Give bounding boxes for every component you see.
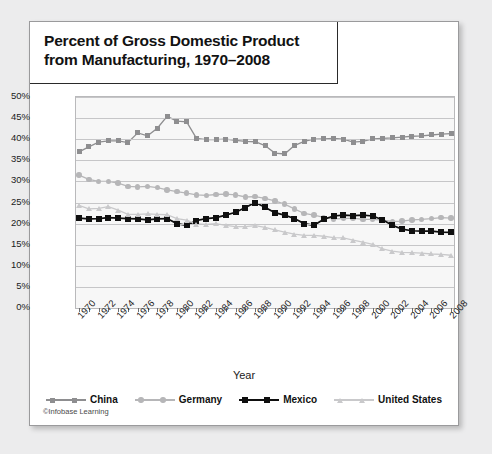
chart-title-box: Percent of Gross Domestic Product from M…: [30, 22, 338, 84]
data-point-germany: [164, 187, 170, 193]
data-point-germany: [301, 211, 307, 217]
y-axis-tick-label: 20%: [0, 217, 30, 228]
data-point-china: [449, 131, 454, 136]
grid-line: [76, 160, 454, 161]
data-point-mexico: [174, 221, 180, 227]
y-axis-tick-label: 0%: [0, 301, 30, 312]
data-point-mexico: [321, 216, 327, 222]
data-point-china: [390, 135, 395, 140]
data-point-germany: [399, 218, 405, 224]
legend-marker: [50, 398, 55, 403]
data-point-united-states: [301, 233, 307, 238]
page-title-line-1: Percent of Gross Domestic Product: [44, 31, 337, 50]
data-point-china: [165, 114, 170, 119]
legend-item-mexico[interactable]: Mexico: [239, 394, 317, 405]
data-point-mexico: [428, 228, 434, 234]
data-point-china: [341, 137, 346, 142]
chart-screenshot: Percent of Gross Domestic Product from M…: [0, 0, 492, 454]
data-point-mexico: [115, 215, 121, 221]
data-point-united-states: [379, 246, 385, 251]
data-point-mexico: [233, 209, 239, 215]
data-point-united-states: [340, 235, 346, 240]
legend-swatch: [239, 394, 279, 405]
data-point-china: [96, 140, 101, 145]
data-point-mexico: [223, 212, 229, 218]
data-point-united-states: [311, 233, 317, 238]
data-point-china: [380, 136, 385, 141]
data-point-mexico: [409, 228, 415, 234]
data-point-china: [106, 138, 111, 143]
data-point-mexico: [242, 205, 248, 211]
data-point-china: [351, 140, 356, 145]
data-point-germany: [115, 180, 121, 186]
data-point-united-states: [370, 242, 376, 247]
plot-wrapper: 0%5%10%15%20%25%30%35%40%45%50% 19701972…: [30, 84, 458, 427]
data-point-united-states: [96, 206, 102, 211]
legend-marker: [264, 397, 270, 403]
data-point-germany: [272, 198, 278, 204]
data-point-germany: [213, 192, 219, 198]
data-point-united-states: [233, 224, 239, 229]
data-point-mexico: [370, 213, 376, 219]
y-axis-tick-label: 15%: [0, 238, 30, 249]
data-point-china: [116, 138, 121, 143]
data-point-mexico: [213, 215, 219, 221]
legend-swatch: [135, 394, 175, 405]
data-point-china: [174, 119, 179, 124]
chart-card: Percent of Gross Domestic Product from M…: [29, 21, 459, 426]
data-point-mexico: [203, 216, 209, 222]
legend-swatch: [334, 394, 374, 405]
legend-label: Germany: [179, 394, 222, 405]
data-point-united-states: [145, 211, 151, 216]
legend-item-china[interactable]: China: [46, 394, 118, 405]
data-point-united-states: [350, 238, 356, 243]
data-point-china: [135, 130, 140, 135]
data-point-china: [400, 135, 405, 140]
y-axis-tick-label: 5%: [0, 280, 30, 291]
legend-label: China: [90, 394, 118, 405]
y-axis-tick-label: 25%: [0, 196, 30, 207]
data-point-germany: [409, 217, 415, 223]
data-point-mexico: [76, 215, 82, 221]
data-point-united-states: [213, 221, 219, 226]
data-point-united-states: [164, 212, 170, 217]
data-point-germany: [174, 189, 180, 195]
y-axis-tick-label: 35%: [0, 153, 30, 164]
grid-line: [76, 287, 454, 288]
legend-item-germany[interactable]: Germany: [135, 394, 222, 405]
data-point-mexico: [291, 216, 297, 222]
data-point-united-states: [184, 218, 190, 223]
legend-marker: [138, 397, 144, 403]
y-axis-tick-label: 50%: [0, 90, 30, 101]
data-point-china: [214, 137, 219, 142]
data-point-united-states: [321, 234, 327, 239]
data-point-united-states: [76, 203, 82, 208]
data-point-united-states: [223, 223, 229, 228]
legend-swatch: [46, 394, 86, 405]
y-axis-tick-label: 45%: [0, 111, 30, 122]
data-point-mexico: [350, 213, 356, 219]
data-point-mexico: [272, 210, 278, 216]
data-point-mexico: [448, 229, 454, 235]
legend-marker: [160, 397, 166, 403]
data-point-china: [409, 134, 414, 139]
plot-area: [75, 96, 455, 309]
data-point-united-states: [448, 253, 454, 258]
data-point-germany: [243, 194, 249, 200]
x-axis-title: Year: [30, 369, 458, 381]
y-axis-tick-label: 40%: [0, 132, 30, 143]
data-point-united-states: [193, 222, 199, 227]
data-point-united-states: [105, 204, 111, 209]
data-point-germany: [204, 193, 210, 199]
y-axis-tick-label: 10%: [0, 259, 30, 270]
data-point-mexico: [438, 229, 444, 235]
legend-item-united-states[interactable]: United States: [334, 394, 442, 405]
data-point-china: [155, 126, 160, 131]
data-point-china: [263, 143, 268, 148]
data-point-mexico: [419, 228, 425, 234]
data-point-germany: [233, 192, 239, 198]
data-point-mexico: [360, 212, 366, 218]
data-point-united-states: [389, 249, 395, 254]
data-point-germany: [311, 212, 317, 218]
data-point-china: [145, 133, 150, 138]
